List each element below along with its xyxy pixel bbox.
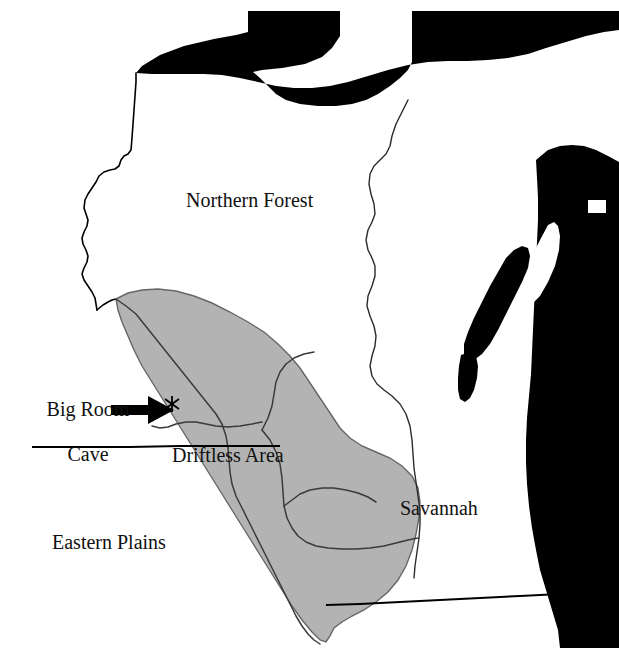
site-label-line2: Cave bbox=[67, 443, 108, 465]
region-label-savannah: Savannah bbox=[400, 497, 478, 519]
lake-superior-water bbox=[136, 11, 619, 106]
site-label-big-room-cave: Big Room Cave bbox=[20, 376, 136, 488]
lake-michigan-white-notch bbox=[588, 200, 606, 213]
region-label-driftless-area: Driftless Area bbox=[172, 444, 284, 466]
region-label-northern-forest: Northern Forest bbox=[186, 189, 313, 211]
map-figure: Northern Forest Driftless Area Savannah … bbox=[0, 0, 619, 648]
river-st-croix bbox=[97, 299, 116, 310]
lake-michigan-water bbox=[526, 145, 619, 648]
lake-winnebago-water bbox=[458, 352, 478, 402]
region-label-eastern-plains: Eastern Plains bbox=[52, 531, 166, 553]
state-border-northwest bbox=[82, 73, 136, 310]
site-label-line1: Big Room bbox=[47, 398, 130, 420]
